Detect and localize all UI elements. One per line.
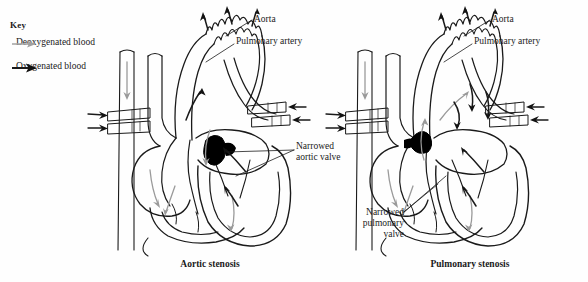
label-narrowed-pulmonary-valve: Narrowed pulmonary valve (334, 207, 404, 240)
caption-pulmonary-stenosis: Pulmonary stenosis (380, 259, 560, 269)
label-pulmonary-artery-left: Pulmonary artery (236, 36, 302, 47)
label-pulmonary-artery-right: Pulmonary artery (474, 36, 540, 47)
figure-canvas: Key Deoxygenated blood Oxygenated blood (0, 0, 588, 282)
label-narrowed-aortic-valve: Narrowed aortic valve (296, 141, 341, 163)
label-aorta-left: Aorta (254, 14, 276, 25)
label-aorta-right: Aorta (492, 14, 514, 25)
caption-aortic-stenosis: Aortic stenosis (120, 259, 300, 269)
